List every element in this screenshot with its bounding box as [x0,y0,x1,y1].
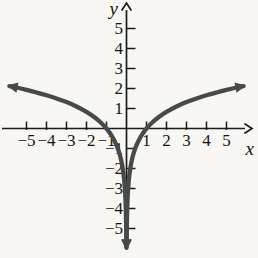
function-graph: −5−4−3−2−11234554321−1−2−3−4−5xy [0,0,258,258]
x-tick-label: −2 [77,131,95,150]
x-tick-label: 2 [162,131,171,150]
x-tick-label: 3 [182,131,191,150]
y-axis-label: y [108,0,119,19]
y-tick-label: 1 [115,99,124,118]
y-tick-label: −3 [105,179,123,198]
curve-right-branch [127,86,244,247]
x-axis-label: x [245,138,255,159]
x-tick-label: −4 [37,131,56,150]
x-tick-label: 4 [202,131,211,150]
y-tick-label: −4 [105,199,124,218]
y-tick-label: 4 [115,39,124,58]
x-tick-label: −5 [17,131,35,150]
x-tick-label: 5 [222,131,231,150]
graph-figure: −5−4−3−2−11234554321−1−2−3−4−5xy [0,0,258,258]
x-tick-label: −3 [57,131,75,150]
y-tick-label: −5 [105,219,123,238]
y-tick-label: 3 [115,59,124,78]
y-tick-label: 5 [115,19,124,38]
y-tick-label: 2 [115,79,124,98]
